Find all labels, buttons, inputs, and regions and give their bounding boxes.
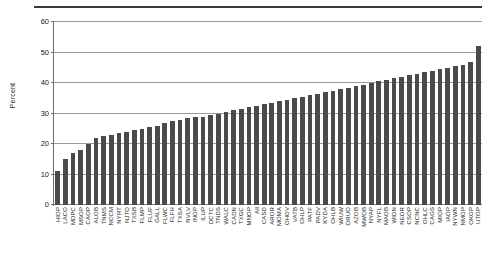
y-tick-label-60: 60 [41,17,49,26]
x-axis-label-slot: NMOP [459,207,467,265]
x-axis-label-slot: MAOB [383,207,391,265]
x-axis-label-slot: OHLC [421,207,429,265]
x-axis-label-slot: NYRT [115,207,123,265]
x-axis-label-slot: AZOB [352,207,360,265]
bar [407,75,412,205]
bar-slot [422,22,427,205]
x-axis-label: WIDN [391,207,397,223]
bar-slot [354,22,359,205]
bar-slot [193,22,198,205]
bar-slot [55,22,60,205]
bar [269,103,274,205]
x-axis-label-slot: LACO [62,207,70,265]
bar-slot [361,22,366,205]
x-axis-label-slot: MIOP [436,207,444,265]
x-axis-label: All [254,207,260,214]
bar [399,77,404,205]
y-axis-title: Percent [9,66,16,126]
x-axis-label-slot: FLWC [161,207,169,265]
x-axis-label-slot: CADN [230,207,238,265]
x-axis-label: TXGC [238,207,244,224]
bar-slot [384,22,389,205]
bar [55,171,60,205]
x-axis-label-slot: CASD [260,207,268,265]
bar-slot [315,22,320,205]
x-axis-label: WALC [223,207,229,225]
x-axis-label: AZOB [353,207,359,224]
x-axis-label: ALOB [93,207,99,223]
bar-slot [86,22,91,205]
x-axis-label-slot: CSOP [406,207,414,265]
bar-slot [476,22,481,205]
x-axis-label-slot: NEOR [398,207,406,265]
bar [86,144,91,205]
bar [315,94,320,205]
bar-slot [178,22,183,205]
x-axis-label-slot: MOMA [276,207,284,265]
bar [384,80,389,205]
bar-slot [231,22,236,205]
x-axis-label: OHLB [330,207,336,224]
x-axis-label-slot: PATF [306,207,314,265]
bar-slot [468,22,473,205]
x-axis-label-slot: NCCM [108,207,116,265]
x-axis-label-slot: NYFL [375,207,383,265]
x-axis-label: CAGS [429,207,435,224]
bar [132,130,137,205]
x-axis-label: DCTC [208,207,214,224]
bar [323,92,328,205]
bar-slot [285,22,290,205]
x-axis-label: FLFH [169,207,175,222]
x-axis-label: HIOP [55,207,61,222]
x-axis-label-slot: OHLP [299,207,307,265]
x-axis-label: CAOP [85,207,91,224]
bar [208,115,213,205]
x-axis-label: MIOP [437,207,443,223]
x-axis-label: OHOV [284,207,290,225]
x-axis-label: TNMS [101,207,107,224]
x-axis-label: PADV [315,207,321,223]
bar [292,98,297,205]
bar-slot [262,22,267,205]
x-axis-label: FLUF [147,207,153,222]
bar-slot [407,22,412,205]
bar-slot [254,22,259,205]
x-axis-label: FLMP [139,207,145,223]
bar [300,97,305,205]
bar-slot [63,22,68,205]
bar-slot [101,22,106,205]
x-axis-label-slot: TXSA [176,207,184,265]
bar-slot [338,22,343,205]
x-axis-label-slot: INOP [192,207,200,265]
plot-area: 0102030405060 [54,22,482,205]
x-axis-label-slot: NYWN [451,207,459,265]
y-tick-label-20: 20 [41,139,49,148]
x-axis-label: NCCM [108,207,114,225]
x-axis-label-slot: TNMS [100,207,108,265]
x-axis-label: LACO [62,207,68,224]
x-axis-label: FLWC [162,207,168,224]
bar [415,74,420,205]
bar [117,133,122,205]
bar-slot [445,22,450,205]
bar-slot [277,22,282,205]
top-divider-rule [34,6,482,8]
x-axis-label-slot: NJTO [123,207,131,265]
x-axis-label-slot: ILUP [199,207,207,265]
bar [354,86,359,205]
x-axis-label: IAOP [445,207,451,222]
x-axis-label: VATB [292,207,298,222]
bar [369,83,374,205]
bar [185,118,190,205]
x-axis-label-slot: CAOP [85,207,93,265]
bar-slot [292,22,297,205]
x-axis-label-slot: FLFH [169,207,177,265]
bar [430,71,435,205]
x-axis-label: UTOP [475,207,481,224]
x-axis-label-slot: WIUW [337,207,345,265]
y-tick-label-30: 30 [41,108,49,117]
bar-slot [415,22,420,205]
bar [216,114,221,206]
x-axis-label-slot: IAOP [444,207,452,265]
x-axis-label: MSOP [78,207,84,225]
